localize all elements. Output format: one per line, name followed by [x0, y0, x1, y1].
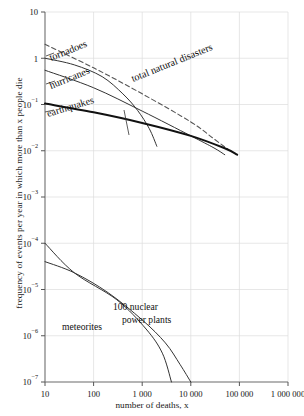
chart-figure: 10110−110−210−310−410−510−610−7101001 00…: [0, 0, 304, 416]
curve-meteorites: [45, 243, 171, 382]
x-axis-label: number of deaths, x: [0, 400, 304, 410]
x-tick-label: 1 000 000: [271, 389, 304, 399]
curve-earthquakes: [45, 104, 237, 155]
annotation-hurricanes: hurricanes: [48, 65, 91, 91]
x-tick-label: 10: [41, 389, 50, 399]
y-tick-label: 10−7: [23, 373, 38, 388]
y-tick-label: 10: [29, 7, 38, 17]
curve-annotations: tornadoeshurricanesearthquakestotal natu…: [45, 38, 214, 332]
y-tick-label: 10−3: [23, 188, 38, 203]
y-tick-label: 1: [34, 54, 38, 64]
leader-line: [124, 110, 129, 135]
curve-total-natural-disasters: [45, 44, 229, 149]
x-tick-label: 100 000: [225, 389, 253, 399]
annotation-nuclear-line2: power plants: [122, 314, 172, 325]
y-tick-label: 10−4: [23, 234, 38, 249]
log-log-plot: 10110−110−210−310−410−510−610−7101001 00…: [0, 0, 304, 416]
y-axis-label: frequency of events per year in which mo…: [14, 28, 24, 358]
annotation-meteorites: meteorites: [62, 321, 102, 332]
x-tick-label: 100: [87, 389, 100, 399]
y-tick-label: 10−1: [23, 95, 38, 110]
x-tick-label: 10 000: [179, 389, 203, 399]
y-tick-label: 10−5: [23, 280, 38, 295]
y-tick-label: 10−6: [23, 327, 38, 342]
x-tick-label: 1 000: [133, 389, 152, 399]
annotation-tornadoes: tornadoes: [48, 38, 89, 63]
annotation-nuclear-line1: 100 nuclear: [113, 301, 159, 312]
y-tick-label: 10−2: [23, 142, 38, 157]
annotation-earthquakes: earthquakes: [45, 94, 95, 119]
